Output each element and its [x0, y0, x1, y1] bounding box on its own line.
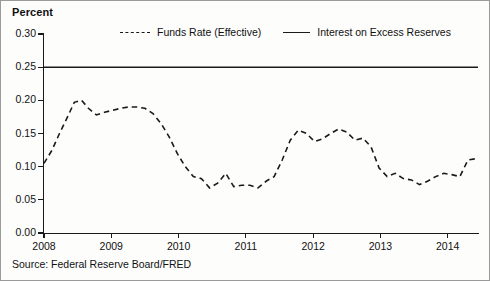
- source-note: Source: Federal Reserve Board/FRED: [12, 258, 191, 270]
- series-line-funds-rate: [44, 100, 476, 188]
- x-tick-label: 2010: [159, 240, 199, 252]
- series-canvas: [44, 34, 478, 233]
- y-tick-label: 0.05: [2, 193, 36, 205]
- chart-figure: Percent Funds Rate (Effective) Interest …: [0, 0, 490, 281]
- x-tick-label: 2013: [360, 240, 400, 252]
- x-tick-mark: [43, 233, 44, 238]
- plot-area: [44, 34, 478, 233]
- y-tick-label: 0.30: [2, 27, 36, 39]
- x-tick-mark: [447, 233, 448, 238]
- y-tick-label: 0.20: [2, 93, 36, 105]
- x-tick-label: 2012: [293, 240, 333, 252]
- y-tick-label: 0.15: [2, 127, 36, 139]
- x-tick-mark: [313, 233, 314, 238]
- y-tick-label: 0.10: [2, 160, 36, 172]
- x-tick-label: 2011: [226, 240, 266, 252]
- y-axis-title: Percent: [12, 6, 53, 18]
- solid-line-swatch-icon: [283, 32, 310, 33]
- dashed-line-swatch-icon: [120, 32, 150, 33]
- y-tick-label: 0.00: [2, 226, 36, 238]
- x-tick-mark: [178, 233, 179, 238]
- x-tick-mark: [380, 233, 381, 238]
- x-tick-mark: [245, 233, 246, 238]
- x-tick-label: 2009: [91, 240, 131, 252]
- x-tick-label: 2008: [24, 240, 64, 252]
- y-tick-label: 0.25: [2, 60, 36, 72]
- x-tick-label: 2014: [428, 240, 468, 252]
- x-tick-mark: [111, 233, 112, 238]
